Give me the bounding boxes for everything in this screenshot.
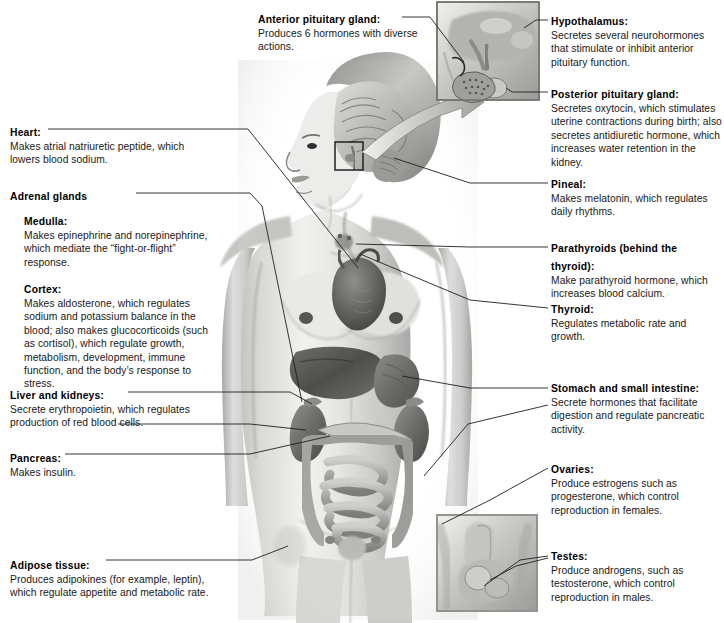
callout-body: Regulates metabolic rate and growth. bbox=[551, 317, 723, 344]
callout-cortex: Cortex: Makes aldosterone, which regulat… bbox=[24, 279, 220, 391]
callout-title: Cortex: bbox=[24, 284, 62, 295]
callout-body: Makes atrial natriuretic peptide, which … bbox=[10, 140, 215, 167]
callout-title: Pineal: bbox=[551, 179, 586, 190]
callout-body: Makes melatonin, which regulates daily r… bbox=[551, 192, 719, 219]
callout-adrenal-glands: Adrenal glands bbox=[10, 186, 224, 204]
callout-body: Produce androgens, such as testosterone,… bbox=[551, 564, 711, 604]
callout-title: Ovaries: bbox=[551, 464, 594, 475]
callout-body: Secrete hormones that facilitate digesti… bbox=[551, 396, 711, 436]
callout-pineal: Pineal: Makes melatonin, which regulates… bbox=[551, 174, 719, 219]
callout-body: Produce estrogens such as progesterone, … bbox=[551, 477, 711, 517]
callout-body: Makes insulin. bbox=[10, 466, 190, 479]
callout-title: Thyroid: bbox=[551, 304, 594, 315]
callout-pancreas: Pancreas: Makes insulin. bbox=[10, 448, 190, 479]
callout-body: Make parathyroid hormone, which increase… bbox=[551, 274, 723, 301]
callout-title: Pancreas: bbox=[10, 453, 61, 464]
pituitary-gland-inset bbox=[437, 2, 539, 103]
callout-title: Adipose tissue: bbox=[10, 560, 90, 571]
callout-title: Adrenal glands bbox=[10, 191, 87, 202]
callout-heart: Heart: Makes atrial natriuretic peptide,… bbox=[10, 122, 215, 167]
callout-title: Heart: bbox=[10, 127, 41, 138]
callout-title: Anterior pituitary gland: bbox=[258, 14, 380, 25]
callout-anterior-pituitary-gland: Anterior pituitary gland: Produces 6 hor… bbox=[258, 9, 443, 54]
callout-medulla: Medulla: Makes epinephrine and norepinep… bbox=[24, 211, 224, 269]
callout-title: Stomach and small intestine: bbox=[551, 383, 699, 394]
callout-body: Produces adipokines (for example, leptin… bbox=[10, 573, 228, 600]
callout-body: Secretes oxytocin, which stimulates uter… bbox=[551, 102, 723, 169]
callout-title: Parathyroids bbox=[551, 243, 616, 254]
endocrine-system-diagram: Anterior pituitary gland: Produces 6 hor… bbox=[0, 0, 724, 623]
callout-title: Hypothalamus: bbox=[551, 16, 628, 27]
callout-hypothalamus: Hypothalamus: Secretes several neurohorm… bbox=[551, 11, 723, 69]
callout-ovaries: Ovaries: Produce estrogens such as proge… bbox=[551, 459, 711, 517]
callout-parathyroids: Parathyroids (behind the thyroid): Make … bbox=[551, 238, 723, 301]
callout-testes: Testes: Produce androgens, such as testo… bbox=[551, 546, 711, 604]
callout-body: Produces 6 hormones with diverse actions… bbox=[258, 27, 443, 54]
male-reproductive-inset bbox=[437, 515, 537, 611]
callout-liver-and-kidneys: Liver and kidneys: Secrete erythropoieti… bbox=[10, 385, 220, 430]
callout-title: Posterior pituitary gland: bbox=[551, 89, 679, 100]
callout-stomach-and-small-intestine: Stomach and small intestine: Secrete hor… bbox=[551, 378, 711, 436]
callout-title: Medulla: bbox=[24, 216, 67, 227]
callout-body: Makes epinephrine and norepinephrine, wh… bbox=[24, 229, 224, 269]
callout-body: Makes aldosterone, which regulates sodiu… bbox=[24, 297, 220, 391]
callout-body: Secrete erythropoietin, which regulates … bbox=[10, 403, 220, 430]
callout-title: Testes: bbox=[551, 551, 588, 562]
callout-title: Liver and kidneys: bbox=[10, 390, 104, 401]
callout-posterior-pituitary-gland: Posterior pituitary gland: Secretes oxyt… bbox=[551, 84, 723, 169]
callout-thyroid: Thyroid: Regulates metabolic rate and gr… bbox=[551, 299, 723, 344]
callout-body: Secretes several neurohormones that stim… bbox=[551, 29, 723, 69]
callout-adipose-tissue: Adipose tissue: Produces adipokines (for… bbox=[10, 555, 228, 600]
